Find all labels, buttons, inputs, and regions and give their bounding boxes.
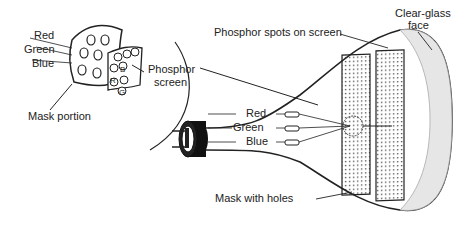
label-phosphor-screen-2: screen: [154, 77, 187, 88]
label-red-inset: Red: [34, 30, 54, 41]
dot-r: R: [110, 75, 116, 86]
dot-g: G: [119, 87, 125, 98]
electron-gun-base: [172, 121, 208, 157]
label-clear-glass-1: Clear-glass: [395, 8, 451, 19]
label-phosphor-screen-1: Phosphor: [148, 64, 195, 75]
label-mask-portion: Mask portion: [28, 111, 91, 122]
label-blue-inset: Blue: [32, 58, 54, 69]
label-clear-glass-2: face: [408, 20, 429, 31]
label-phosphor-spots: Phosphor spots on screen: [214, 27, 342, 38]
dot-b: B: [120, 64, 125, 75]
label-green-inset: Green: [24, 44, 55, 55]
label-mask-with-holes: Mask with holes: [215, 193, 293, 204]
label-gun-blue: Blue: [246, 136, 268, 147]
shadow-mask: [342, 54, 370, 195]
label-gun-green: Green: [233, 122, 264, 133]
electron-guns: [285, 112, 299, 145]
label-gun-red: Red: [246, 108, 266, 119]
phosphor-screen: [376, 50, 404, 201]
